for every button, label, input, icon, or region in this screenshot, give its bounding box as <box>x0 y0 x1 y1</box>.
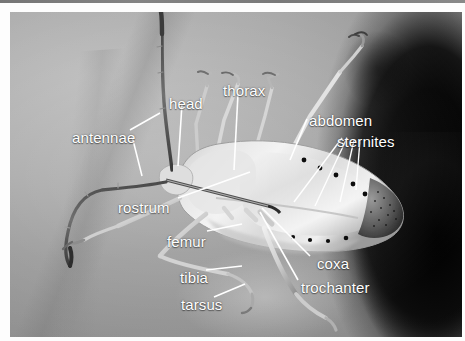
leader-abdomen <box>290 119 307 160</box>
label-tarsus: tarsus <box>181 297 222 312</box>
leader-coxa <box>262 208 310 256</box>
leader-line-overlay <box>10 12 462 337</box>
label-head: head <box>169 96 203 111</box>
label-antennae: antennae <box>72 130 135 145</box>
label-thorax: thorax <box>223 83 265 98</box>
label-sternites: sternites <box>337 134 395 149</box>
label-femur: femur <box>167 234 206 249</box>
leader-tibia <box>206 266 242 270</box>
leader-femur <box>207 224 242 231</box>
page-left-margin <box>0 12 10 341</box>
page-bottom-margin <box>0 337 465 341</box>
figure-root: antennae head thorax abdomen sternites r… <box>0 0 465 341</box>
label-trochanter: trochanter <box>301 280 370 295</box>
leader-head <box>178 104 182 166</box>
leader-rostrum <box>178 172 250 198</box>
label-abdomen: abdomen <box>309 113 372 128</box>
page-top-margin <box>0 3 465 12</box>
insect-photograph: antennae head thorax abdomen sternites r… <box>10 12 462 337</box>
label-coxa: coxa <box>317 256 349 271</box>
leader-trochanter <box>260 212 298 280</box>
label-rostrum: rostrum <box>118 200 170 215</box>
label-tibia: tibia <box>180 270 208 285</box>
leader-thorax <box>234 94 238 170</box>
